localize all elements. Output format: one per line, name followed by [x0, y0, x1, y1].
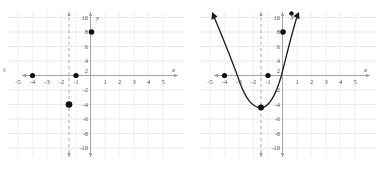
svg-text:5: 5 — [161, 78, 164, 85]
x-tick-labels: -5 -4 -3 -2 -1 1 2 3 4 5 — [15, 78, 164, 85]
svg-text:-10: -10 — [79, 144, 88, 151]
axis-of-symmetry-dashed-line — [67, 12, 70, 157]
svg-text:4: 4 — [147, 78, 151, 85]
svg-text:3: 3 — [132, 78, 135, 85]
svg-text:-6: -6 — [83, 115, 88, 122]
point-vertex — [258, 105, 264, 111]
point-y-intercept — [89, 29, 95, 35]
svg-text:-2: -2 — [275, 86, 280, 93]
svg-text:1: 1 — [295, 78, 298, 85]
svg-text:-3: -3 — [44, 78, 49, 85]
scatter-plot-svg: -5 -4 -3 -2 -1 1 2 3 4 5 10 8 6 4 2 -2 -… — [0, 0, 191, 169]
svg-text:-4: -4 — [30, 78, 36, 85]
svg-text:-5: -5 — [207, 78, 212, 85]
point-root-right — [265, 73, 270, 78]
svg-text:5: 5 — [353, 78, 356, 85]
svg-text:6: 6 — [85, 43, 88, 50]
svg-text:2: 2 — [85, 67, 88, 74]
svg-text:2: 2 — [277, 67, 280, 74]
svg-text:-2: -2 — [251, 78, 256, 85]
svg-text:-4: -4 — [275, 101, 281, 108]
svg-text:-8: -8 — [83, 130, 88, 137]
x-tick-labels: -5 -4 -3 -2 -1 1 2 3 4 5 — [207, 78, 356, 85]
svg-text:3: 3 — [324, 78, 327, 85]
point-root-left — [30, 73, 35, 78]
svg-text:-2: -2 — [83, 86, 88, 93]
svg-text:10: 10 — [82, 14, 88, 21]
graph-panel-parabola: -5 -4 -3 -2 -1 1 2 3 4 5 10 8 6 4 2 -2 -… — [192, 0, 383, 169]
svg-text:4: 4 — [339, 78, 343, 85]
svg-text:6: 6 — [277, 43, 280, 50]
x-axis-label: x — [363, 66, 368, 74]
svg-text:8: 8 — [277, 28, 280, 35]
svg-text:2: 2 — [118, 78, 121, 85]
point-vertex — [66, 101, 73, 108]
graph-panel-scatter: -5 -4 -3 -2 -1 1 2 3 4 5 10 8 6 4 2 -2 -… — [0, 0, 191, 169]
svg-text:-4: -4 — [222, 78, 228, 85]
svg-text:10: 10 — [274, 14, 280, 21]
point-root-right — [73, 73, 78, 78]
svg-text:-2: -2 — [59, 78, 64, 85]
svg-text:-6: -6 — [275, 115, 280, 122]
svg-text:-1: -1 — [265, 78, 270, 85]
svg-text:-4: -4 — [83, 101, 89, 108]
svg-text:-1: -1 — [73, 78, 78, 85]
point-root-left — [222, 73, 227, 78]
svg-text:2: 2 — [310, 78, 313, 85]
point-upper-right — [289, 11, 293, 15]
y-tick-labels: 10 8 6 4 2 -2 -4 -6 -8 -10 — [79, 14, 88, 152]
svg-text:-8: -8 — [275, 130, 280, 137]
svg-text:1: 1 — [103, 78, 106, 85]
x-axis — [22, 74, 178, 77]
svg-text:-3: -3 — [236, 78, 241, 85]
point-y-intercept — [280, 29, 286, 35]
parabola-plot-svg: -5 -4 -3 -2 -1 1 2 3 4 5 10 8 6 4 2 -2 -… — [192, 0, 383, 169]
axis-of-symmetry-dashed-line — [259, 12, 262, 157]
svg-text:-10: -10 — [271, 144, 280, 151]
svg-text:8: 8 — [85, 28, 88, 35]
svg-text:-5: -5 — [15, 78, 20, 85]
x-axis-label: x — [171, 66, 176, 74]
